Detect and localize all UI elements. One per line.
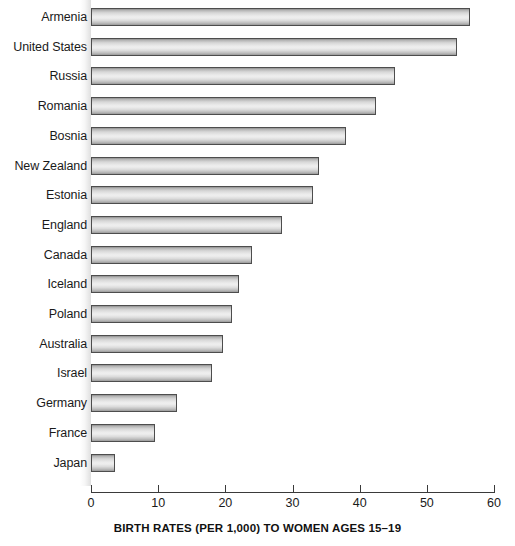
category-label-estonia: Estonia (46, 189, 87, 202)
category-label-poland: Poland (49, 308, 87, 321)
category-label-armenia: Armenia (41, 11, 87, 24)
bar-japan (91, 454, 115, 472)
x-tick-30 (293, 485, 294, 493)
bar-row: France (0, 424, 515, 442)
birth-rates-bar-chart: ArmeniaUnited StatesRussiaRomaniaBosniaN… (0, 0, 515, 546)
plot-area: ArmeniaUnited StatesRussiaRomaniaBosniaN… (0, 0, 515, 492)
x-tick-label-40: 40 (353, 497, 367, 510)
bar-row: New Zealand (0, 157, 515, 175)
category-label-romania: Romania (38, 100, 87, 113)
bar-row: Israel (0, 364, 515, 382)
x-tick-label-50: 50 (420, 497, 434, 510)
category-label-iceland: Iceland (47, 278, 87, 291)
x-tick-20 (225, 485, 226, 493)
bar-armenia (91, 8, 470, 26)
bar-canada (91, 246, 252, 264)
bar-row: Germany (0, 394, 515, 412)
bar-england (91, 216, 282, 234)
x-tick-label-20: 20 (218, 497, 232, 510)
bar-germany (91, 394, 177, 412)
bar-row: Iceland (0, 275, 515, 293)
bar-row: Australia (0, 335, 515, 353)
bar-row: Bosnia (0, 127, 515, 145)
x-tick-60 (494, 485, 495, 493)
bar-france (91, 424, 155, 442)
bar-israel (91, 364, 212, 382)
x-axis-title: BIRTH RATES (PER 1,000) TO WOMEN AGES 15… (0, 522, 515, 534)
bar-row: Canada (0, 246, 515, 264)
x-tick-label-10: 10 (151, 497, 165, 510)
category-label-england: England (42, 219, 87, 232)
x-tick-label-30: 30 (286, 497, 300, 510)
x-tick-label-0: 0 (88, 497, 95, 510)
category-label-russia: Russia (49, 70, 87, 83)
category-label-france: France (49, 427, 87, 440)
x-tick-50 (427, 485, 428, 493)
bar-russia (91, 67, 395, 85)
bar-poland (91, 305, 232, 323)
x-tick-0 (91, 485, 92, 493)
category-label-bosnia: Bosnia (49, 130, 87, 143)
bar-row: United States (0, 38, 515, 56)
bar-new-zealand (91, 157, 319, 175)
bar-row: Romania (0, 97, 515, 115)
x-tick-10 (158, 485, 159, 493)
bar-row: Russia (0, 67, 515, 85)
bar-bosnia (91, 127, 346, 145)
bar-row: England (0, 216, 515, 234)
bar-row: Estonia (0, 186, 515, 204)
category-label-israel: Israel (57, 367, 87, 380)
category-label-germany: Germany (36, 397, 87, 410)
bar-row: Japan (0, 454, 515, 472)
x-tick-40 (360, 485, 361, 493)
bar-romania (91, 97, 376, 115)
bar-iceland (91, 275, 239, 293)
category-label-new-zealand: New Zealand (14, 159, 87, 172)
bar-estonia (91, 186, 313, 204)
bar-united-states (91, 38, 457, 56)
category-label-canada: Canada (44, 248, 87, 261)
category-label-united-states: United States (13, 40, 87, 53)
bar-row: Armenia (0, 8, 515, 26)
bar-australia (91, 335, 223, 353)
x-tick-label-60: 60 (487, 497, 501, 510)
category-label-japan: Japan (53, 456, 87, 469)
bar-row: Poland (0, 305, 515, 323)
category-label-australia: Australia (39, 337, 87, 350)
